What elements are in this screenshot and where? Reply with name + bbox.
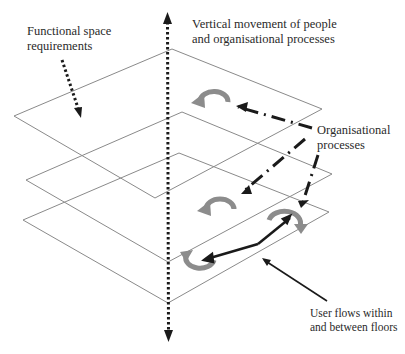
floor-planes <box>14 49 332 303</box>
label-functional-space: Functional space requirements <box>27 24 111 54</box>
label-vertical-movement: Vertical movement of people and organisa… <box>192 17 337 47</box>
cycle-icon <box>197 199 234 216</box>
label-user-flows: User flows within and between floors <box>310 306 398 334</box>
functional-space-arrow <box>62 60 82 118</box>
arrowhead-icon <box>74 107 82 118</box>
floor-bottom <box>23 153 329 303</box>
vertical-movement-arrow <box>163 12 173 342</box>
label-organisational-processes: Organisational processes <box>317 123 390 153</box>
floor-middle <box>26 112 332 262</box>
cycle-icon <box>191 91 228 108</box>
user-flow-arrows <box>204 216 327 301</box>
arrowhead-down-icon <box>164 330 173 342</box>
arrowhead-up-icon <box>163 12 172 24</box>
process-cycles <box>180 91 308 268</box>
